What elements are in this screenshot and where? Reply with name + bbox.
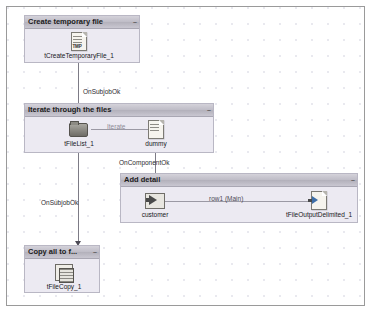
subjob-body-iterate-through-the-files: Iterate tFileList_1 dummy [25,117,213,152]
component-tcreatetemporaryfile-1[interactable]: TMP tCreateTemporaryFile_1 [40,31,118,60]
row1-main-link-label: row1 (Main) [209,195,243,203]
onsubjobok-label-2: OnSubjobOk [41,199,78,207]
component-label-tfilecopy-1: tFileCopy_1 [25,283,103,291]
oncomponentok-label: OnComponentOk [119,159,170,167]
subjob-body-copy-all-to-folder: tFileCopy_1 [25,259,99,292]
subjob-iterate-through-the-files[interactable]: Iterate through the files – Iterate tFil… [24,103,214,153]
subjob-title-bar-add-detail[interactable]: Add detail – [121,174,357,187]
subjob-body-add-detail: row1 (Main) customer tFileOutputDelimite… [121,187,357,222]
file-copy-icon [53,262,75,282]
component-dummy[interactable]: dummy [117,119,195,148]
job-design-canvas[interactable]: OnSubjobOk OnComponentOk OnSubjobOk Crea… [6,6,365,306]
component-label-tfilelist-1: tFileList_1 [40,140,118,148]
subjob-copy-all-to-folder[interactable]: Copy all to f... – tFileCopy_1 [24,245,100,293]
subjob-title-bar-create-temporary-file[interactable]: Create temporary file – [25,16,139,29]
document-icon [145,119,167,139]
subjob-title-label: Iterate through the files [28,104,111,116]
subjob-title-label: Add detail [124,174,160,186]
folder-list-icon [68,119,90,139]
subjob-title-label: Copy all to f... [28,246,77,258]
component-tfileoutputdelimited-1[interactable]: tFileOutputDelimited_1 [280,190,358,219]
collapse-icon[interactable]: – [89,246,96,258]
collapse-icon[interactable]: – [203,104,210,116]
subjob-add-detail[interactable]: Add detail – row1 (Main) customer [120,173,358,223]
component-label-tfileoutputdelimited-1: tFileOutputDelimited_1 [280,211,358,219]
input-arrow-icon [144,190,166,210]
onsubjobok-label-1: OnSubjobOk [83,88,120,96]
onsubjobok-link-2-line [78,149,79,243]
temp-file-icon: TMP [68,31,90,51]
subjob-title-bar-copy-all-to-folder[interactable]: Copy all to f... – [25,246,99,259]
collapse-icon[interactable]: – [347,174,354,186]
subjob-create-temporary-file[interactable]: Create temporary file – TMP tCreateTempo… [24,15,140,63]
subjob-body-create-temporary-file: TMP tCreateTemporaryFile_1 [25,29,139,62]
component-tfilecopy-1[interactable]: tFileCopy_1 [25,262,103,291]
component-customer[interactable]: customer [116,190,194,219]
component-tfilelist-1[interactable]: tFileList_1 [40,119,118,148]
collapse-icon[interactable]: – [129,16,136,28]
component-label-tcreatetemporaryfile-1: tCreateTemporaryFile_1 [40,52,118,60]
component-label-dummy: dummy [117,140,195,148]
component-label-customer: customer [116,211,194,219]
subjob-title-bar-iterate-through-the-files[interactable]: Iterate through the files – [25,104,213,117]
output-file-icon [308,190,330,210]
subjob-title-label: Create temporary file [28,16,103,28]
temp-file-icon-text: TMP [69,44,85,49]
